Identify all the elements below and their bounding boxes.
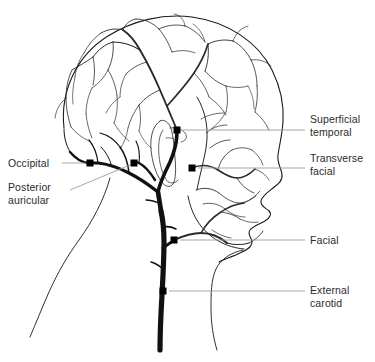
scalp-branch-f6 [93,57,95,85]
scalp-branch-f47 [106,97,120,113]
parietal-trunk [167,44,208,106]
scalp-branch-f29 [128,105,139,128]
scalp-branch-f33 [172,51,195,53]
scalp-branch-f26 [226,86,228,112]
external-carotid-trunk-upper [158,192,161,211]
scalp-branch-f27 [194,73,209,97]
marker-squares-group [87,127,196,295]
trunk-stub-1 [151,262,162,268]
scalp-branch-f18 [208,40,233,44]
scalp-branch-f24 [205,71,226,86]
occipital-branch-4 [64,129,70,152]
scalp-branch-f7 [108,42,113,70]
midface-branch-2 [219,193,238,203]
scalp-branch-f13 [123,19,136,30]
midface-branch-4 [203,203,225,209]
facial-branch-5 [212,230,231,238]
scalp-branch-f20 [251,60,257,86]
anterior-neck-outline [211,250,243,350]
marker-occipital [87,160,94,167]
scalp-branch-f35 [73,77,75,104]
scalp-branch-f44 [120,128,128,149]
label-facial: Facial [310,234,339,247]
scalp-branch-f19 [233,41,251,60]
scalp-branch-f34 [75,53,84,77]
scalp-branch-f40 [86,88,92,114]
label-posterior-auricular: Posterior auricular [8,181,51,206]
scalp-branch-f31 [126,62,147,74]
scalp-branch-f37 [255,112,269,130]
scalp-branch-f43 [114,123,129,141]
scalp-branch-f30 [139,105,141,131]
ear-group [151,120,187,186]
facial-branch-4 [240,219,258,222]
tf-branch-5 [252,150,263,165]
tf-branch-1 [218,150,232,170]
scalp-branch-f16 [159,25,185,29]
scalp-branch-f5 [66,98,71,127]
occipital-artery [88,163,158,192]
scalp-branch-f28 [139,90,160,105]
marker-posterior-auricular [131,160,138,167]
tf-branch-3 [237,178,254,193]
midface-branch-1 [196,188,219,193]
marker-transverse-facial [189,165,196,172]
label-occipital: Occipital [8,157,49,170]
scalp-branch-f9 [108,70,117,96]
midface-branch-7 [206,125,227,133]
occipital-artery-continuation [70,152,88,163]
marker-external-carotid [160,288,167,295]
scalp-branch-f49 [248,86,254,109]
marker-facial [171,237,178,244]
scalp-branch-f25 [226,86,248,88]
scalp-branch-f41 [86,114,92,138]
scalp-branch-f21 [255,86,257,112]
head-outline-group [30,16,283,350]
label-superficial-temporal: Superficial temporal [310,113,360,138]
anatomy-figure-page: Superficial temporal Transverse facial F… [0,0,375,362]
facial-branch-2 [249,231,263,243]
scalp-branch-f42 [71,127,89,141]
scalp-branch-f50 [139,131,151,148]
scalp-branch-f14 [136,19,159,29]
tf-branch-4 [255,169,269,180]
tf-branch-2 [232,148,252,150]
scalp-branch-f15 [159,29,172,52]
external-carotid-artery [160,211,164,350]
trunk-stub-3 [146,200,159,203]
leader-posterior-auricular [70,165,130,190]
label-external-carotid: External carotid [310,284,349,309]
scalp-branch-f11 [101,29,123,33]
scalp-branch-f38 [209,97,226,115]
occipital-branch-2 [100,133,120,147]
preauricular-line [197,97,207,190]
marker-superficial-temporal [174,127,181,134]
label-transverse-facial: Transverse facial [310,152,363,177]
facial-branch-1 [227,243,249,245]
midface-branch-6 [210,140,230,148]
ear-lobe [166,180,178,183]
facial-vessel-network [174,113,269,245]
scalp-branch-f32 [120,74,126,97]
